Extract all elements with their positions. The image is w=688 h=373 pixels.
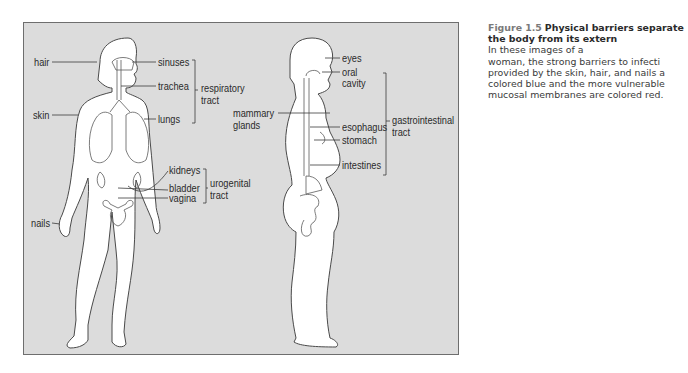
caption-line-5: mucosal membranes are colored red.: [488, 89, 663, 100]
label-kidneys: kidneys: [169, 165, 200, 176]
label-vagina: vagina: [169, 193, 196, 204]
caption-line-2: woman, the strong barriers to infecti: [488, 56, 660, 67]
label-eyes: eyes: [342, 53, 362, 64]
label-hair: hair: [34, 57, 49, 68]
label-glands: glands: [233, 120, 260, 131]
label-cavity: cavity: [342, 78, 366, 89]
label-urogenital-tract: tract: [210, 190, 228, 201]
caption-line-4: colored blue and the more vulnerable: [488, 78, 665, 89]
front-body-silhouette: [59, 38, 160, 348]
figure-number: Figure 1.5: [488, 22, 542, 33]
label-trachea: trachea: [158, 81, 189, 92]
caption-line-1: In these images of a: [488, 44, 584, 55]
label-esophagus: esophagus: [342, 122, 387, 133]
label-respiratory: respiratory: [201, 83, 245, 94]
label-intestines: intestines: [342, 160, 381, 171]
label-mammary: mammary: [233, 108, 274, 119]
caption-line-3: provided by the skin, hair, and nails a: [488, 67, 665, 78]
label-respiratory-tract: tract: [201, 95, 219, 106]
label-stomach: stomach: [342, 135, 377, 146]
label-gastrointestinal-tract: tract: [392, 127, 410, 138]
label-nails: nails: [31, 218, 50, 229]
label-gastrointestinal: gastrointestinal: [392, 115, 454, 126]
label-skin: skin: [33, 110, 49, 121]
label-urogenital: urogenital: [210, 178, 251, 189]
figure-caption: Figure 1.5 Physical barriers separate th…: [488, 22, 688, 100]
label-sinuses: sinuses: [158, 57, 189, 68]
label-lungs: lungs: [158, 114, 180, 125]
